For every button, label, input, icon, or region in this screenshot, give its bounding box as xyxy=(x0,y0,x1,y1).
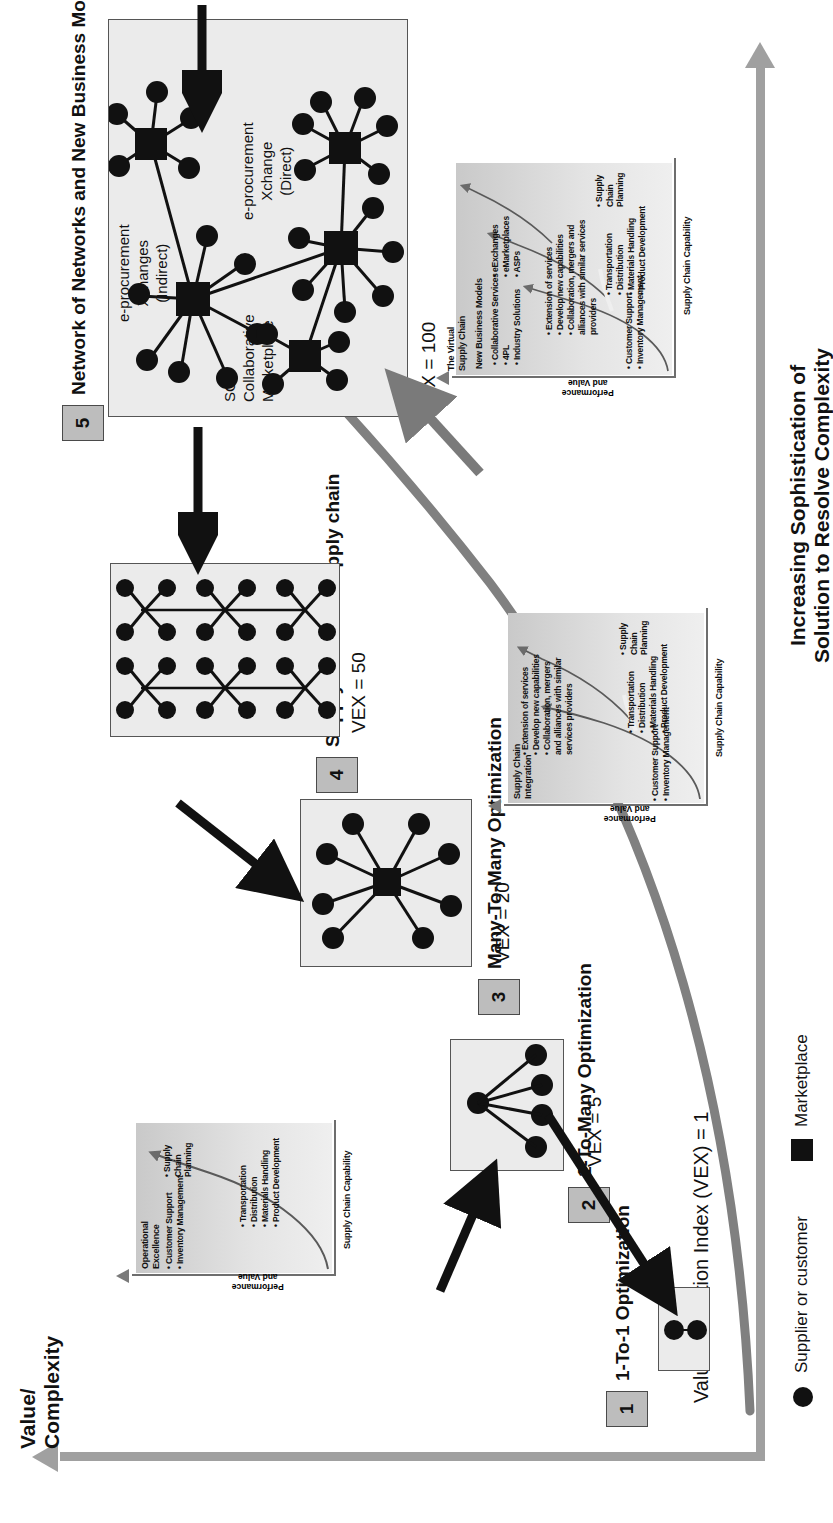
label-line: and Value xyxy=(568,378,608,388)
pointer-arrow-to-stage1 xyxy=(530,1103,700,1333)
bullet: • Distribution xyxy=(249,1138,260,1227)
pointer-arrow-to-stage4 xyxy=(178,415,218,575)
stage5-label-direct: e-procurement Xchange (Direct) xyxy=(239,122,295,220)
stage5-label-indirect: e-procurement Xchanges (Indirect) xyxy=(115,224,171,322)
legend-label-marketplace: Marketplace xyxy=(792,1034,812,1127)
inset1-y-arrowhead xyxy=(116,1269,129,1283)
inset-virtual-supply-chain: Performance and Value Supply Chain Capab… xyxy=(448,137,736,405)
label-line: (Direct) xyxy=(277,147,294,196)
inset3-x-axis-label: Supply Chain Capability xyxy=(682,217,692,315)
label-line: SC xyxy=(221,381,238,402)
inset1-x-axis-label: Supply Chain Capability xyxy=(342,1151,352,1249)
bullet: • Materials Handling xyxy=(260,1138,271,1227)
bullet: • ASPs xyxy=(512,216,523,277)
inset3-bullets-top: • Supply Chain Planning xyxy=(594,161,626,207)
bullet: • Supply Chain Planning xyxy=(162,1129,194,1177)
bullet: • eExchanges xyxy=(490,216,501,277)
node-marketplace-square xyxy=(373,868,401,896)
inset2-x-axis-label: Supply Chain Capability xyxy=(714,659,724,757)
y-axis-title: Value/ Complexity xyxy=(16,1336,63,1449)
bullet: • Supply Chain Planning xyxy=(594,161,626,207)
stage-badge-4: 4 xyxy=(316,757,358,793)
stage-badge-5: 5 xyxy=(62,405,104,441)
bullet: • Extension of services xyxy=(544,215,555,335)
legend-marker-circle xyxy=(793,1387,813,1407)
x-axis-title-line1: Increasing Sophistication of xyxy=(786,365,809,646)
pointer-arrow-to-stage5 xyxy=(182,0,222,133)
node-circle xyxy=(440,895,462,917)
label-line: e-procurement xyxy=(239,122,256,220)
inset3-bullets-lower: • Customer Support • Inventory Managemen… xyxy=(624,275,646,369)
label-line: Excellence xyxy=(151,1224,161,1269)
label-line: Xchanges xyxy=(134,240,151,307)
bullet: • Customer Support xyxy=(624,275,635,369)
inset3-x-axis xyxy=(674,158,676,378)
bullet: • Inventory Management xyxy=(175,1175,186,1269)
inset3-headline2: New Business Models xyxy=(474,278,484,369)
stage5-label-marketplace: SC Collaborative Marketplace xyxy=(221,314,277,402)
inset-operational-excellence: Performance and Value Supply Chain Capab… xyxy=(128,1115,380,1301)
bullet: • Materials Handling xyxy=(648,644,659,733)
bullet: • eMarketplaces xyxy=(501,216,512,277)
label-line: The Virtual xyxy=(446,327,456,371)
inset1-bullets-lower: • Customer Support • Inventory Managemen… xyxy=(164,1175,186,1269)
bullet: • Industry Solutions xyxy=(512,273,523,365)
y-axis-title-line1: Value/ xyxy=(16,1388,39,1449)
inset-supply-chain-integration: Performance and Value Supply Chain Capab… xyxy=(500,587,760,833)
bullet: • Collaboration, mergers and alliances w… xyxy=(542,647,575,755)
inset3-y-arrowhead xyxy=(436,371,449,385)
bullet: • Supply Chain Planning xyxy=(618,611,650,655)
stage-box-3 xyxy=(300,799,472,967)
stage-box-5: SC Collaborative Marketplace e-procureme… xyxy=(108,19,408,417)
inset1-bullets-top: • Supply Chain Planning xyxy=(162,1129,194,1177)
stage-badge-3: 3 xyxy=(478,979,520,1015)
inset3-y-axis-label: Performance and Value xyxy=(562,377,614,397)
bullet: • Inventory Management xyxy=(635,275,646,369)
stage-vex-4: VEX = 50 xyxy=(348,652,370,733)
inset1-bullets-upper: • Transportation • Distribution • Materi… xyxy=(238,1138,282,1227)
node-circle xyxy=(408,813,430,835)
x-axis-title: Increasing Sophistication of Solution to… xyxy=(786,348,833,663)
inset3-bullets-upper: • Extension of services • Develop new ca… xyxy=(544,215,599,335)
bullet: • Collaborative Services xyxy=(490,273,501,365)
inset2-y-arrowhead xyxy=(488,799,501,813)
inset2-y-axis-label: Performance and Value xyxy=(604,803,656,823)
pointer-arrow-to-stage2 xyxy=(430,1147,510,1297)
bullet: • Develop new capabilities xyxy=(531,647,542,755)
label-line: (Indirect) xyxy=(153,244,170,303)
inset2-bullets-top: • Supply Chain Planning xyxy=(618,611,650,655)
label-line: and Value xyxy=(610,804,650,814)
inset2-bullets-mid: • Transportation • Distribution • Materi… xyxy=(626,644,670,733)
legend-label-supplier: Supplier or customer xyxy=(792,1216,812,1373)
stage4-edges xyxy=(111,562,341,736)
x-axis-title-line2: Solution to Resolve Complexity xyxy=(810,348,833,663)
bullet: • Transportation xyxy=(626,644,637,733)
stage-box-4 xyxy=(110,563,340,737)
bullet: • 4PL xyxy=(501,273,512,365)
inset1-x-axis xyxy=(334,1120,336,1276)
inset2-bullets-upper: • Extension of services • Develop new ca… xyxy=(520,647,575,755)
bullet: • Transportation xyxy=(604,206,615,295)
inset1-headline: Operational Excellence xyxy=(140,1221,162,1269)
stage-vex-3: VEX = 20 xyxy=(492,882,514,963)
bullet: • Develop new capabilities xyxy=(555,215,566,335)
bullet: • Transportation xyxy=(238,1138,249,1227)
label-line: Supply Chain xyxy=(457,316,467,371)
bullet: • Product Development xyxy=(271,1138,282,1227)
label-line: Marketplace xyxy=(259,320,276,402)
inset3-headline: The Virtual Supply Chain xyxy=(446,316,468,371)
legend-marker-square-2 xyxy=(791,1139,813,1161)
label-line: Performance xyxy=(232,1282,284,1292)
label-line: Collaborative xyxy=(240,314,257,402)
node-circle xyxy=(342,813,364,835)
bullet: • Distribution xyxy=(637,644,648,733)
inset2-x-axis xyxy=(706,608,708,806)
label-line: and Value xyxy=(238,1272,278,1282)
label-line: Xchange xyxy=(258,142,275,201)
stage-title-5: Network of Networks and New Business Mod… xyxy=(68,0,90,395)
stage-badge-1: 1 xyxy=(606,1391,648,1427)
node-circle xyxy=(412,927,434,949)
node-circle xyxy=(322,927,344,949)
